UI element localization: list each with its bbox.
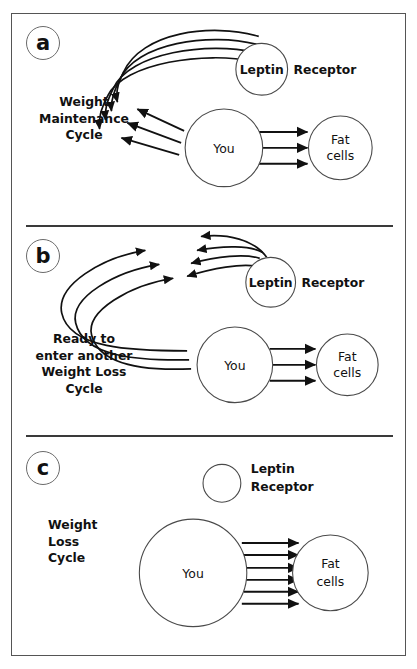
panel-a-you-to-fat-arrows <box>259 132 308 164</box>
panel-b-leptin-label: Leptin <box>249 276 293 290</box>
panel-a-receptor-label: Receptor <box>294 63 358 77</box>
panel-a: a Weight Maintenance Cycle <box>12 14 405 225</box>
panel-c-fat-label-line2: cells <box>316 574 344 589</box>
figure-frame: a Weight Maintenance Cycle <box>11 13 406 656</box>
panel-a-you-label: You <box>212 141 234 156</box>
panel-c-you-label: You <box>181 566 203 581</box>
panel-b-you-to-fat-arrows <box>270 349 316 381</box>
panel-a-leptin-label: Leptin <box>240 63 284 77</box>
panel-c: c Weight Loss Cycle Leptin Receptor <box>12 437 405 657</box>
panel-b-you-to-leptin-arcs <box>61 250 191 369</box>
panel-b-fat-label-line1: Fat <box>338 349 357 364</box>
panel-c-leptin-label: Leptin <box>251 462 295 476</box>
panel-b-artwork: Leptin Receptor You Fat cells <box>12 227 405 435</box>
panel-c-leptin-receptor-circle <box>203 464 241 502</box>
panel-a-you-to-leptin-arrows <box>121 109 184 155</box>
panel-b-receptor-label: Receptor <box>302 276 366 290</box>
panel-b: b Ready to enter another Weight Loss Cyc… <box>12 227 405 435</box>
panel-b-fat-label-line2: cells <box>333 365 361 380</box>
panel-a-artwork: Leptin Receptor You Fat cells <box>12 14 405 225</box>
panel-a-fat-label-line2: cells <box>326 148 354 163</box>
panel-b-you-label: You <box>223 358 245 373</box>
panel-c-you-to-fat-arrows <box>242 543 299 604</box>
panel-a-fat-label-line1: Fat <box>331 132 350 147</box>
panel-c-receptor-label: Receptor <box>251 480 315 494</box>
panel-c-artwork: Leptin Receptor You Fat cells <box>12 437 405 657</box>
panel-c-fat-label-line1: Fat <box>321 556 340 571</box>
